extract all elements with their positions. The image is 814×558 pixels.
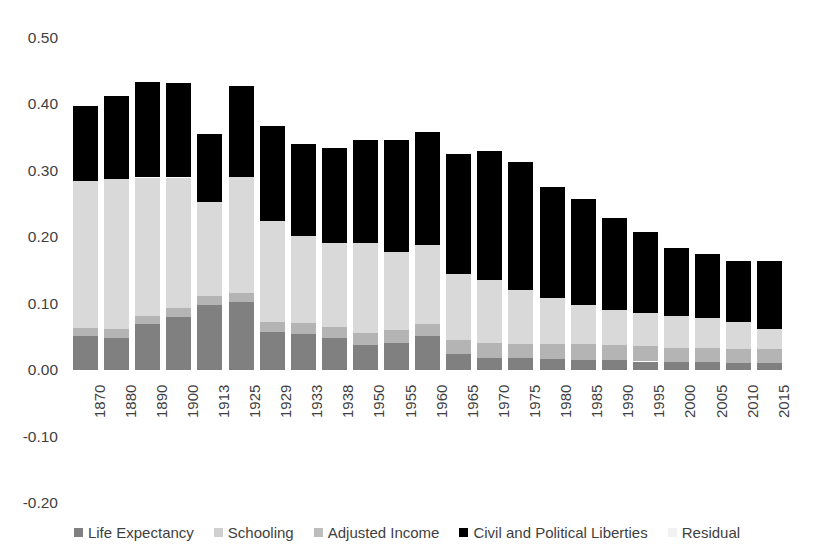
y-tick-label: 0.40 (28, 96, 58, 112)
bar-segment (571, 305, 596, 344)
bar-group: 2000 (664, 30, 689, 510)
y-tick-label: 0.10 (28, 296, 58, 312)
bar-segment (322, 148, 347, 243)
bar-group: 1965 (446, 30, 471, 510)
bar-segment (384, 252, 409, 330)
bar-segment (571, 360, 596, 371)
legend-item[interactable]: Life Expectancy (74, 525, 194, 540)
bar-segment (508, 344, 533, 359)
bar-segment (446, 274, 471, 340)
bar-segment (415, 324, 440, 337)
bar-segment (757, 349, 782, 363)
bar-segment (664, 316, 689, 347)
bar-segment (73, 336, 98, 370)
bar-segment (197, 305, 222, 370)
x-tick-label: 2015 (776, 385, 791, 418)
legend-item[interactable]: Schooling (214, 525, 294, 540)
legend-item[interactable]: Residual (668, 525, 740, 540)
legend-label: Adjusted Income (328, 525, 440, 540)
bar-segment (695, 348, 720, 363)
bar-segment (73, 106, 98, 181)
legend-label: Civil and Political Liberties (473, 525, 647, 540)
bar-segment (260, 332, 285, 371)
bar-segment (166, 83, 191, 177)
bar-group: 1985 (571, 30, 596, 510)
bar-segment (322, 243, 347, 327)
bar-group: 2015 (757, 30, 782, 510)
y-tick-label: 0.50 (28, 30, 58, 46)
bar-segment (571, 199, 596, 305)
y-tick-label: 0.20 (28, 229, 58, 245)
y-axis: 0.500.400.300.200.100.00-0.10-0.20 (0, 0, 68, 558)
bar-segment (322, 327, 347, 338)
bar-segment (757, 363, 782, 370)
bar-segment (353, 140, 378, 243)
bar-group: 1880 (104, 30, 129, 510)
bar-segment (291, 236, 316, 323)
bar-group: 2010 (726, 30, 751, 510)
y-tick-label: 0.00 (28, 362, 58, 378)
bar-segment (135, 178, 160, 316)
bar-segment (695, 362, 720, 370)
bar-segment (384, 140, 409, 252)
bar-segment (540, 359, 565, 370)
legend-item[interactable]: Civil and Political Liberties (459, 525, 647, 540)
bar-segment (260, 221, 285, 321)
bar-group: 1938 (322, 30, 347, 510)
bar-segment (540, 344, 565, 359)
bar-segment (726, 322, 751, 349)
bar-group: 2005 (695, 30, 720, 510)
legend-swatch-icon (214, 528, 223, 537)
bar-segment (197, 202, 222, 296)
bar-segment (602, 345, 627, 360)
bar-segment (166, 178, 191, 309)
bar-segment (633, 313, 658, 346)
bar-segment (726, 349, 751, 363)
bar-segment (664, 348, 689, 363)
bar-group: 1995 (633, 30, 658, 510)
bar-segment (540, 187, 565, 298)
y-tick-label: -0.20 (23, 495, 58, 511)
bar-segment (571, 344, 596, 359)
bar-group: 1870 (73, 30, 98, 510)
bar-segment (726, 363, 751, 370)
bar-segment (602, 218, 627, 310)
bar-group: 1970 (477, 30, 502, 510)
bar-group: 1890 (135, 30, 160, 510)
bar-segment (384, 330, 409, 343)
bar-segment (508, 162, 533, 290)
bar-segment (695, 318, 720, 347)
bar-segment (540, 298, 565, 343)
bar-segment (260, 322, 285, 332)
bar-segment (260, 126, 285, 221)
bar-segment (104, 96, 129, 178)
bar-segment (477, 151, 502, 281)
chart-legend: Life ExpectancySchoolingAdjusted IncomeC… (0, 519, 814, 545)
bar-segment (229, 302, 254, 370)
bar-segment (353, 345, 378, 370)
bar-group: 1900 (166, 30, 191, 510)
bar-group: 1933 (291, 30, 316, 510)
bar-segment (664, 248, 689, 316)
bar-group: 1950 (353, 30, 378, 510)
bar-segment (229, 293, 254, 302)
bar-segment (446, 354, 471, 370)
y-tick-label: 0.30 (28, 163, 58, 179)
bar-segment (477, 358, 502, 371)
bar-group: 1980 (540, 30, 565, 510)
bar-segment (384, 343, 409, 370)
bar-segment (415, 132, 440, 245)
bar-segment (229, 86, 254, 176)
bar-segment (726, 261, 751, 323)
bar-segment (415, 245, 440, 323)
legend-item[interactable]: Adjusted Income (314, 525, 440, 540)
bar-segment (477, 343, 502, 358)
bar-segment (446, 340, 471, 354)
bar-segment (291, 323, 316, 334)
bar-segment (197, 134, 222, 202)
bar-segment (104, 338, 129, 371)
bar-segment (353, 333, 378, 345)
bar-segment (633, 232, 658, 313)
bar-segment (104, 329, 129, 338)
bar-segment (695, 254, 720, 318)
